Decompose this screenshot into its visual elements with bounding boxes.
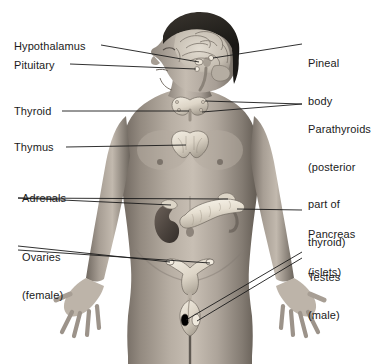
mouth xyxy=(156,69,168,71)
label-hypothalamus: Hypothalamus xyxy=(14,40,86,53)
label-thymus: Thymus xyxy=(14,141,54,154)
ovary-right xyxy=(206,259,214,265)
label-parathyroids-line2: (posterior xyxy=(308,161,371,174)
head xyxy=(151,12,239,92)
label-ovaries-line2: (female) xyxy=(22,289,63,302)
ovary-left xyxy=(166,259,174,265)
arm-right xyxy=(250,116,294,282)
hypothalamus-gland xyxy=(195,59,203,65)
arm-left xyxy=(86,116,130,282)
label-adrenals: Adrenals xyxy=(22,192,66,205)
chin-jaw xyxy=(160,78,172,90)
ear xyxy=(203,57,211,67)
pituitary-gland xyxy=(195,67,200,72)
label-testes: Testes (male) xyxy=(308,246,340,346)
nipple-right xyxy=(217,159,223,165)
hand-left xyxy=(56,278,104,336)
testis-right xyxy=(192,314,200,326)
label-pancreas-line1: Pancreas xyxy=(308,228,355,241)
endocrine-system-diagram: Hypothalamus Pituitary Thyroid Thymus Ad… xyxy=(0,0,380,364)
label-ovaries-line1: Ovaries xyxy=(22,251,63,264)
label-parathyroids-line1: Parathyroids xyxy=(308,123,371,136)
label-pituitary: Pituitary xyxy=(14,59,55,72)
label-testes-line1: Testes xyxy=(308,271,340,284)
label-thyroid: Thyroid xyxy=(14,105,51,118)
label-pineal-body-line1: Pineal xyxy=(308,57,339,70)
nipple-left xyxy=(157,159,163,165)
testis-left xyxy=(181,314,189,326)
label-ovaries: Ovaries (female) xyxy=(22,226,63,326)
cerebellum xyxy=(211,65,230,81)
label-testes-line2: (male) xyxy=(308,309,340,322)
